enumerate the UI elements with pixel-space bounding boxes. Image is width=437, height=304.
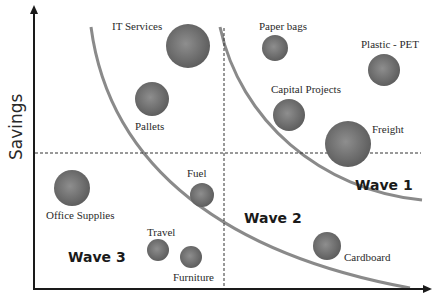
bubble-pallets[interactable] bbox=[135, 82, 169, 116]
bubble-plastic-pet[interactable] bbox=[368, 54, 400, 86]
label-cardboard: Cardboard bbox=[344, 251, 391, 263]
bubble-furniture[interactable] bbox=[180, 246, 202, 268]
bubble-cardboard[interactable] bbox=[313, 232, 341, 260]
wave1-boundary-curve bbox=[220, 27, 422, 200]
y-axis-label: Savings bbox=[6, 93, 26, 160]
bubble-fuel[interactable] bbox=[190, 183, 214, 207]
wave2-label: Wave 2 bbox=[244, 210, 302, 226]
bubble-it-services[interactable] bbox=[166, 24, 210, 68]
label-travel: Travel bbox=[147, 226, 175, 238]
label-it-services: IT Services bbox=[112, 20, 162, 32]
bubble-office-supplies[interactable] bbox=[54, 170, 90, 206]
wave3-label: Wave 3 bbox=[68, 249, 126, 265]
label-furniture: Furniture bbox=[173, 271, 214, 283]
label-plastic-pet: Plastic - PET bbox=[361, 38, 419, 50]
bubble-travel[interactable] bbox=[147, 239, 169, 261]
label-pallets: Pallets bbox=[135, 120, 164, 132]
bubble-capital-projects[interactable] bbox=[273, 99, 305, 131]
label-freight: Freight bbox=[372, 123, 404, 135]
bubble-freight[interactable] bbox=[325, 121, 371, 167]
x-axis-arrow-icon bbox=[423, 285, 432, 293]
label-capital-projects: Capital Projects bbox=[271, 83, 341, 95]
y-axis-arrow-icon bbox=[30, 5, 38, 14]
label-fuel: Fuel bbox=[187, 167, 207, 179]
bubble-chart: Savings IT Services Pallets Paper bags P… bbox=[0, 0, 437, 304]
bubble-paper-bags[interactable] bbox=[262, 35, 288, 61]
label-office-supplies: Office Supplies bbox=[46, 209, 115, 221]
wave1-label: Wave 1 bbox=[355, 177, 413, 193]
label-paper-bags: Paper bags bbox=[259, 20, 307, 32]
